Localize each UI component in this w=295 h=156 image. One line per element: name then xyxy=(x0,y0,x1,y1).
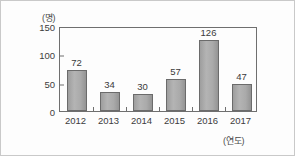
bar-slot: 57 xyxy=(159,28,192,111)
y-axis-tick-label: 150 xyxy=(1,22,55,33)
x-axis-tick-mark xyxy=(225,107,226,111)
bar[interactable] xyxy=(100,92,120,111)
y-axis-tick-label: 50 xyxy=(1,78,55,89)
bar-slot: 30 xyxy=(126,28,159,111)
bar-value-label: 34 xyxy=(104,79,115,90)
plot-area: 7234305712647 xyxy=(59,27,257,112)
x-axis-tick-label: 2013 xyxy=(92,115,125,126)
x-axis-tick-mark xyxy=(93,107,94,111)
y-axis-tick-mark xyxy=(60,56,64,57)
bar-value-label: 126 xyxy=(201,27,217,38)
y-axis-tick-mark xyxy=(60,84,64,85)
x-axis-tick-label: 2014 xyxy=(125,115,158,126)
bar[interactable] xyxy=(67,70,87,111)
x-axis-tick-label: 2012 xyxy=(59,115,92,126)
bar[interactable] xyxy=(232,84,252,111)
chart-figure: (명) (연도) 7234305712647 050100150 2012201… xyxy=(0,0,295,156)
bar-slot: 72 xyxy=(60,28,93,111)
bar[interactable] xyxy=(166,79,186,111)
bar[interactable] xyxy=(133,94,153,111)
x-axis-tick-mark xyxy=(126,107,127,111)
x-axis-tick-label: 2017 xyxy=(224,115,257,126)
bars-layer: 7234305712647 xyxy=(60,28,256,111)
x-axis-tick-label: 2015 xyxy=(158,115,191,126)
bar-value-label: 47 xyxy=(236,71,247,82)
x-axis-tick-label: 2016 xyxy=(191,115,224,126)
bar-slot: 47 xyxy=(225,28,258,111)
y-axis-tick-label: 100 xyxy=(1,50,55,61)
bar-value-label: 72 xyxy=(71,57,82,68)
x-axis-tick-mark xyxy=(159,107,160,111)
bar[interactable] xyxy=(199,40,219,111)
bar-slot: 126 xyxy=(192,28,225,111)
bar-value-label: 57 xyxy=(170,66,181,77)
x-axis-unit-label: (연도) xyxy=(223,134,244,147)
x-axis-tick-mark xyxy=(192,107,193,111)
y-axis-tick-label: 0 xyxy=(1,107,55,118)
bar-slot: 34 xyxy=(93,28,126,111)
bar-value-label: 30 xyxy=(137,81,148,92)
